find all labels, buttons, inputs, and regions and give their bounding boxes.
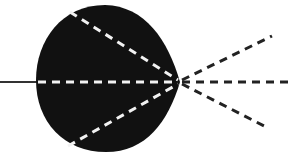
outer-lower-ray xyxy=(182,84,268,128)
outer-rays xyxy=(182,36,294,128)
lens-body xyxy=(36,5,180,152)
outer-upper-ray xyxy=(182,36,272,80)
lens-focus-diagram xyxy=(0,0,294,153)
